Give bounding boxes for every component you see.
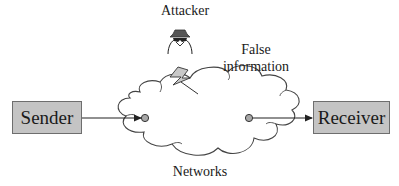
entry-node xyxy=(141,114,148,121)
attacker-icon xyxy=(168,30,192,54)
false-information-label: False information xyxy=(214,41,298,75)
false-information-line1: False xyxy=(214,41,298,58)
sender-box: Sender xyxy=(12,101,82,134)
receiver-box: Receiver xyxy=(313,101,390,134)
networks-label: Networks xyxy=(165,164,235,180)
diagram-canvas xyxy=(0,0,399,186)
attacker-label: Attacker xyxy=(155,3,215,19)
cloud-icon xyxy=(118,66,299,156)
false-information-line2: information xyxy=(214,58,298,75)
exit-node xyxy=(245,114,252,121)
